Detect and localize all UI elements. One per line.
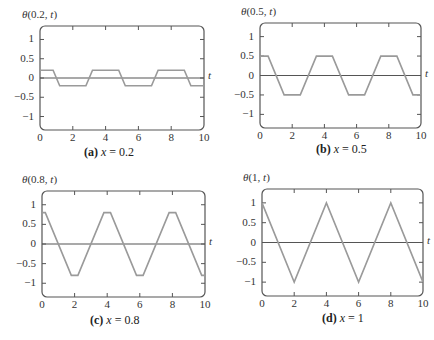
x-tick-label: 6 bbox=[349, 297, 369, 309]
x-tick-label: 2 bbox=[284, 297, 304, 309]
x-tick-label: 0 bbox=[252, 297, 272, 309]
panel-d: θ(1, t) (d) x = 1 10.50−0.5−10246810t bbox=[0, 0, 434, 340]
plot-title-d: θ(1, t) bbox=[243, 171, 270, 183]
y-tick-label: 0 bbox=[226, 236, 256, 248]
caption-d: (d) x = 1 bbox=[322, 311, 364, 326]
title-close: ) bbox=[266, 171, 270, 183]
x-tick-label: 10 bbox=[413, 297, 433, 309]
plot-area bbox=[0, 0, 434, 340]
x-tick-label: 8 bbox=[381, 297, 401, 309]
x-tick-label: 4 bbox=[316, 297, 336, 309]
t-axis-label: t bbox=[427, 234, 430, 246]
y-tick-label: 1 bbox=[226, 196, 256, 208]
y-tick-label: −0.5 bbox=[226, 255, 256, 267]
y-tick-label: 0.5 bbox=[226, 216, 256, 228]
y-tick-label: −1 bbox=[226, 275, 256, 287]
title-args: (1, bbox=[248, 171, 263, 183]
caption-eq: = 1 bbox=[345, 311, 364, 325]
caption-tag: (d) bbox=[322, 311, 337, 325]
